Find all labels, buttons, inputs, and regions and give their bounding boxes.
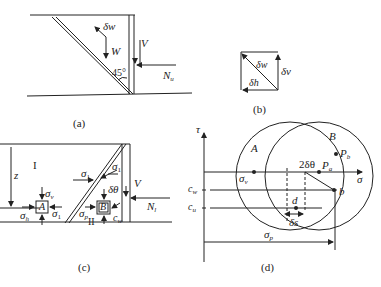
panel-d-geometry: [202, 122, 373, 262]
label-c-w: cw: [188, 184, 197, 196]
label-v: V: [141, 38, 148, 49]
label-sigma-v: σv: [239, 173, 248, 186]
caption-c: (c): [78, 262, 90, 273]
diagram-lines: [0, 0, 381, 287]
label-sigma-1-right: σ1: [112, 161, 121, 174]
label-region-2: II: [88, 217, 95, 227]
label-v: V: [134, 178, 141, 189]
label-c-w: cw: [113, 213, 122, 225]
label-sigma-v: σv: [45, 188, 54, 201]
label-delta-theta: δθ: [108, 184, 119, 195]
label-element-b: B: [100, 202, 106, 212]
label-delta-s: δs: [289, 217, 298, 228]
label-sigma-1-a: σ1: [52, 208, 61, 221]
label-p-b: Pb: [340, 148, 350, 161]
label-two-delta-theta: 2δθ: [299, 159, 315, 170]
label-sigma-p: σp: [79, 208, 88, 221]
label-delta-h: δh: [249, 78, 259, 88]
label-sigma: σ: [357, 174, 362, 185]
label-c-u: cu: [188, 202, 196, 214]
caption-d: (d): [261, 262, 274, 273]
label-z: z: [14, 170, 18, 181]
label-angle: 45°: [112, 68, 126, 78]
label-delta-w: δw: [256, 60, 267, 70]
caption-b: (b): [253, 104, 266, 115]
label-sigma-p: σp: [264, 229, 273, 242]
label-delta-v: δv: [281, 66, 291, 77]
label-p-a: Pa: [322, 160, 332, 173]
label-tau: τ: [196, 124, 200, 135]
label-element-a: A: [39, 202, 45, 212]
label-region-1: I: [33, 160, 37, 171]
caption-a: (a): [73, 118, 85, 129]
label-circle-b: B: [329, 131, 336, 142]
label-point-d: d: [292, 195, 298, 206]
label-n-u: Nu: [163, 70, 174, 83]
label-sigma-1-left: σ1: [81, 168, 90, 181]
figure: δw W 45° V Nu (a) δw δv δh (b) I z σv σh…: [0, 0, 381, 287]
label-circle-a: A: [251, 143, 258, 154]
label-sigma-h: σh: [20, 210, 29, 223]
label-weight: W: [111, 46, 120, 57]
panel-b-geometry: [241, 52, 278, 90]
label-n-l: Nl: [147, 201, 156, 214]
label-delta-w: δw: [103, 21, 115, 32]
label-point-b: b: [339, 186, 345, 197]
